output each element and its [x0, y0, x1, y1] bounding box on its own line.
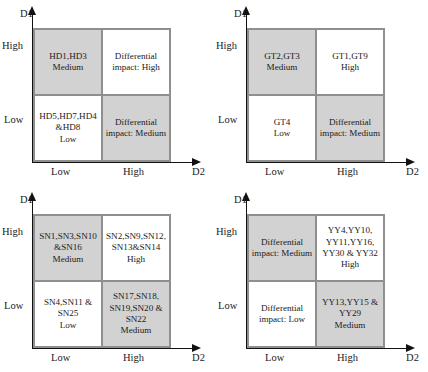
x-axis-arrow-icon [406, 158, 415, 166]
cell-gt-bottom-left: GT4 Low [248, 95, 316, 161]
matrix-yy: Differential impact: Medium YY4,YY10, YY… [247, 214, 385, 348]
y-axis-label: D1 [234, 194, 247, 205]
x-tick-low: Low [265, 166, 284, 177]
cell-label: SN17,SN18, SN19,SN20 & SN22 Medium [109, 291, 162, 337]
y-axis-label: D1 [20, 8, 33, 19]
x-tick-high: High [337, 352, 358, 363]
y-tick-high: High [216, 226, 237, 237]
y-axis-label: D1 [234, 8, 247, 19]
cell-label: SN4,SN11 & SN25 Low [44, 297, 92, 331]
cell-hd-bottom-right: Differential impact: Medium [102, 95, 170, 161]
cell-sn-top-right: SN2,SN9,SN12, SN13&SN14 High [102, 215, 170, 281]
y-tick-low: Low [4, 114, 23, 125]
cell-label: Differential impact: Medium [106, 117, 166, 140]
x-tick-low: Low [51, 352, 70, 363]
cell-label: Differential impact: Medium [252, 237, 312, 260]
cell-label: HD5,HD7,HD4 &HD8 Low [39, 111, 97, 145]
cell-yy-top-left: Differential impact: Medium [248, 215, 316, 281]
y-tick-low: Low [218, 114, 237, 125]
x-axis-line [32, 348, 193, 349]
x-axis-label: D2 [406, 166, 419, 177]
cell-sn-bottom-right: SN17,SN18, SN19,SN20 & SN22 Medium [102, 281, 170, 347]
x-axis-line [246, 348, 407, 349]
y-tick-low: Low [218, 300, 237, 311]
x-tick-high: High [123, 352, 144, 363]
quadrant-panel-hd: D1 D2 High Low Low High HD1,HD3 Medium D… [0, 0, 214, 186]
panel-grid: D1 D2 High Low Low High HD1,HD3 Medium D… [0, 0, 428, 372]
x-axis-line [246, 162, 407, 163]
cell-label: HD1,HD3 Medium [49, 51, 87, 74]
cell-sn-top-left: SN1,SN3,SN10 &SN16 Medium [34, 215, 102, 281]
cell-gt-top-right: GT1,GT9 High [316, 29, 384, 95]
quadrant-panel-gt: D1 D2 High Low Low High GT2,GT3 Medium G… [214, 0, 428, 186]
cell-sn-bottom-left: SN4,SN11 & SN25 Low [34, 281, 102, 347]
x-axis-label: D2 [192, 166, 205, 177]
cell-gt-bottom-right: Differential impact: Medium [316, 95, 384, 161]
cell-label: YY4,YY10, YY11,YY16, YY30 & YY32 High [322, 225, 378, 271]
y-tick-high: High [2, 226, 23, 237]
cell-gt-top-left: GT2,GT3 Medium [248, 29, 316, 95]
cell-label: SN1,SN3,SN10 &SN16 Medium [39, 231, 97, 265]
cell-hd-top-left: HD1,HD3 Medium [34, 29, 102, 95]
x-tick-high: High [337, 166, 358, 177]
x-axis-arrow-icon [406, 344, 415, 352]
y-tick-high: High [216, 40, 237, 51]
matrix-hd: HD1,HD3 Medium Differential impact: High… [33, 28, 171, 162]
cell-hd-top-right: Differential impact: High [102, 29, 170, 95]
figure-sheet: D1 D2 High Low Low High HD1,HD3 Medium D… [0, 0, 428, 372]
cell-hd-bottom-left: HD5,HD7,HD4 &HD8 Low [34, 95, 102, 161]
y-tick-low: Low [4, 300, 23, 311]
cell-label: Differential impact: Low [259, 303, 305, 326]
y-axis-label: D1 [20, 194, 33, 205]
matrix-sn: SN1,SN3,SN10 &SN16 Medium SN2,SN9,SN12, … [33, 214, 171, 348]
cell-label: YY13,YY15 & YY29 Medium [322, 297, 378, 331]
quadrant-panel-yy: D1 D2 High Low Low High Differential imp… [214, 186, 428, 372]
cell-label: GT2,GT3 Medium [264, 51, 300, 74]
x-axis-arrow-icon [192, 158, 201, 166]
cell-yy-bottom-left: Differential impact: Low [248, 281, 316, 347]
x-axis-arrow-icon [192, 344, 201, 352]
x-axis-label: D2 [192, 352, 205, 363]
y-tick-high: High [2, 40, 23, 51]
x-axis-line [32, 162, 193, 163]
cell-yy-bottom-right: YY13,YY15 & YY29 Medium [316, 281, 384, 347]
cell-label: Differential impact: High [112, 51, 160, 74]
cell-label: GT1,GT9 High [332, 51, 368, 74]
cell-yy-top-right: YY4,YY10, YY11,YY16, YY30 & YY32 High [316, 215, 384, 281]
x-tick-low: Low [51, 166, 70, 177]
matrix-gt: GT2,GT3 Medium GT1,GT9 High GT4 Low Diff… [247, 28, 385, 162]
cell-label: SN2,SN9,SN12, SN13&SN14 High [106, 231, 166, 265]
cell-label: Differential impact: Medium [320, 117, 380, 140]
x-axis-label: D2 [406, 352, 419, 363]
cell-label: GT4 Low [274, 117, 291, 140]
x-tick-low: Low [265, 352, 284, 363]
x-tick-high: High [123, 166, 144, 177]
quadrant-panel-sn: D1 D2 High Low Low High SN1,SN3,SN10 &SN… [0, 186, 214, 372]
